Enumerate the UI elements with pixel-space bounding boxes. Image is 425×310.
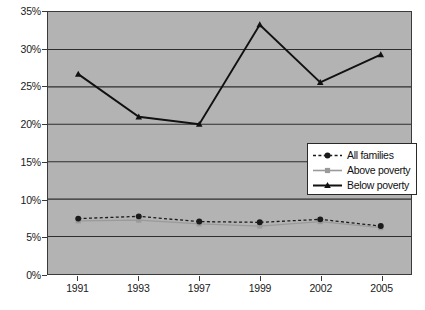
y-axis-tick-label: 30% — [0, 44, 41, 54]
x-axis-tick-mark — [321, 276, 322, 281]
x-axis-tick-mark — [199, 276, 200, 281]
chart-legend: All families Above poverty Below poverty — [307, 143, 417, 195]
y-axis-tick-mark — [42, 49, 47, 50]
y-axis-tick-label: 25% — [0, 81, 41, 91]
legend-item-below-poverty: Below poverty — [311, 177, 412, 192]
x-axis-tick-label: 2005 — [370, 282, 393, 294]
x-axis-labels: 199119931997199920022005 — [47, 282, 412, 302]
x-axis-tick-label: 1993 — [127, 282, 150, 294]
legend-label: Above poverty — [347, 164, 410, 176]
x-axis-tick-label: 1991 — [66, 282, 89, 294]
x-axis-tick-mark — [77, 276, 78, 281]
legend-label: All families — [347, 149, 394, 161]
y-axis-tick-mark — [42, 275, 47, 276]
legend-swatch-solid-triangle-icon — [311, 178, 344, 191]
legend-item-all-families: All families — [311, 147, 412, 162]
x-axis-tick-label: 2002 — [309, 282, 332, 294]
legend-swatch-solid-square-icon — [311, 163, 344, 176]
y-axis-tick-mark — [42, 11, 47, 12]
series-above-poverty — [76, 218, 384, 231]
y-axis-tick-label: 0% — [0, 270, 41, 280]
x-axis-tick-mark — [382, 276, 383, 281]
line-chart: 0%5%10%15%20%25%30%35% 19911993199719992… — [0, 0, 425, 310]
y-axis-labels: 0%5%10%15%20%25%30%35% — [0, 0, 41, 286]
legend-label: Below poverty — [347, 179, 409, 191]
series-below-poverty — [75, 21, 384, 127]
legend-item-above-poverty: Above poverty — [311, 162, 412, 177]
y-axis-tick-label: 15% — [0, 157, 41, 167]
y-axis-tick-mark — [42, 86, 47, 87]
y-axis-tick-label: 20% — [0, 119, 41, 129]
y-axis-tick-label: 35% — [0, 6, 41, 16]
x-axis-tick-label: 1997 — [188, 282, 211, 294]
y-axis-tick-label: 5% — [0, 232, 41, 242]
y-axis-tick-label: 10% — [0, 195, 41, 205]
y-axis-tick-mark — [42, 124, 47, 125]
series-all-families — [75, 213, 383, 229]
x-axis-tick-mark — [138, 276, 139, 281]
legend-swatch-dashed-circle-icon — [311, 148, 344, 161]
x-axis-tick-label: 1999 — [249, 282, 272, 294]
y-axis-tick-mark — [42, 237, 47, 238]
x-axis-tick-mark — [260, 276, 261, 281]
y-axis-tick-mark — [42, 200, 47, 201]
y-axis-tick-mark — [42, 162, 47, 163]
